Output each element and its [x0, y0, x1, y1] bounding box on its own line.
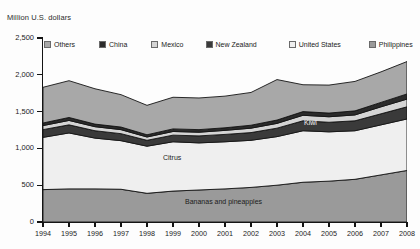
y-axis-label: 1,500: [0, 107, 34, 116]
x-axis-tick: [42, 222, 43, 227]
legend-item-china[interactable]: China: [99, 41, 127, 48]
legend-swatch-icon: [99, 41, 106, 48]
x-axis-tick: [198, 222, 199, 227]
y-axis-label: 2,000: [0, 70, 34, 79]
legend-swatch-icon: [369, 41, 376, 48]
legend-label: Philippines: [379, 41, 413, 48]
legend-label: Others: [54, 41, 75, 48]
chart-legend: OthersChinaMexicoNew ZealandUnited State…: [44, 39, 396, 50]
legend-item-mexico[interactable]: Mexico: [151, 41, 183, 48]
legend-label: Mexico: [161, 41, 183, 48]
y-axis-tick: [37, 111, 43, 112]
stacked-area-chart: Million U.S. dollars 2,5002,0001,5001,00…: [0, 0, 420, 249]
area-series-group: [43, 62, 407, 222]
x-axis-tick: [250, 222, 251, 227]
y-axis-label: 1,000: [0, 143, 34, 152]
y-axis-tick: [37, 74, 43, 75]
legend-swatch-icon: [151, 41, 158, 48]
plot-area: [43, 38, 407, 222]
legend-item-united-states[interactable]: United States: [289, 41, 341, 48]
legend-swatch-icon: [289, 41, 296, 48]
legend-label: United States: [299, 41, 341, 48]
legend-item-philippines[interactable]: Philippines: [369, 41, 413, 48]
legend-swatch-icon: [44, 41, 51, 48]
x-axis-label: 2008: [392, 229, 420, 238]
y-axis-tick: [37, 185, 43, 186]
legend-item-others[interactable]: Others: [44, 41, 75, 48]
legend-label: New Zealand: [216, 41, 257, 48]
x-axis-tick: [172, 222, 173, 227]
x-axis-tick: [380, 222, 381, 227]
x-axis-tick: [328, 222, 329, 227]
y-axis-label: 500: [0, 180, 34, 189]
legend-item-new-zealand[interactable]: New Zealand: [206, 41, 257, 48]
x-axis-tick: [406, 222, 407, 227]
y-axis-title: Million U.S. dollars: [7, 13, 71, 22]
y-axis-tick: [37, 37, 43, 38]
x-axis-tick: [354, 222, 355, 227]
x-axis-tick: [224, 222, 225, 227]
y-axis-tick: [37, 148, 43, 149]
legend-label: China: [109, 41, 127, 48]
x-axis-tick: [120, 222, 121, 227]
x-axis-tick: [94, 222, 95, 227]
x-axis-tick: [302, 222, 303, 227]
x-axis-tick: [276, 222, 277, 227]
legend-swatch-icon: [206, 41, 213, 48]
y-axis-label: 0: [0, 217, 34, 226]
x-axis-tick: [68, 222, 69, 227]
y-axis-line: [42, 37, 43, 223]
plot-svg: [43, 38, 407, 222]
y-axis-label: 2,500: [0, 33, 34, 42]
x-axis-tick: [146, 222, 147, 227]
